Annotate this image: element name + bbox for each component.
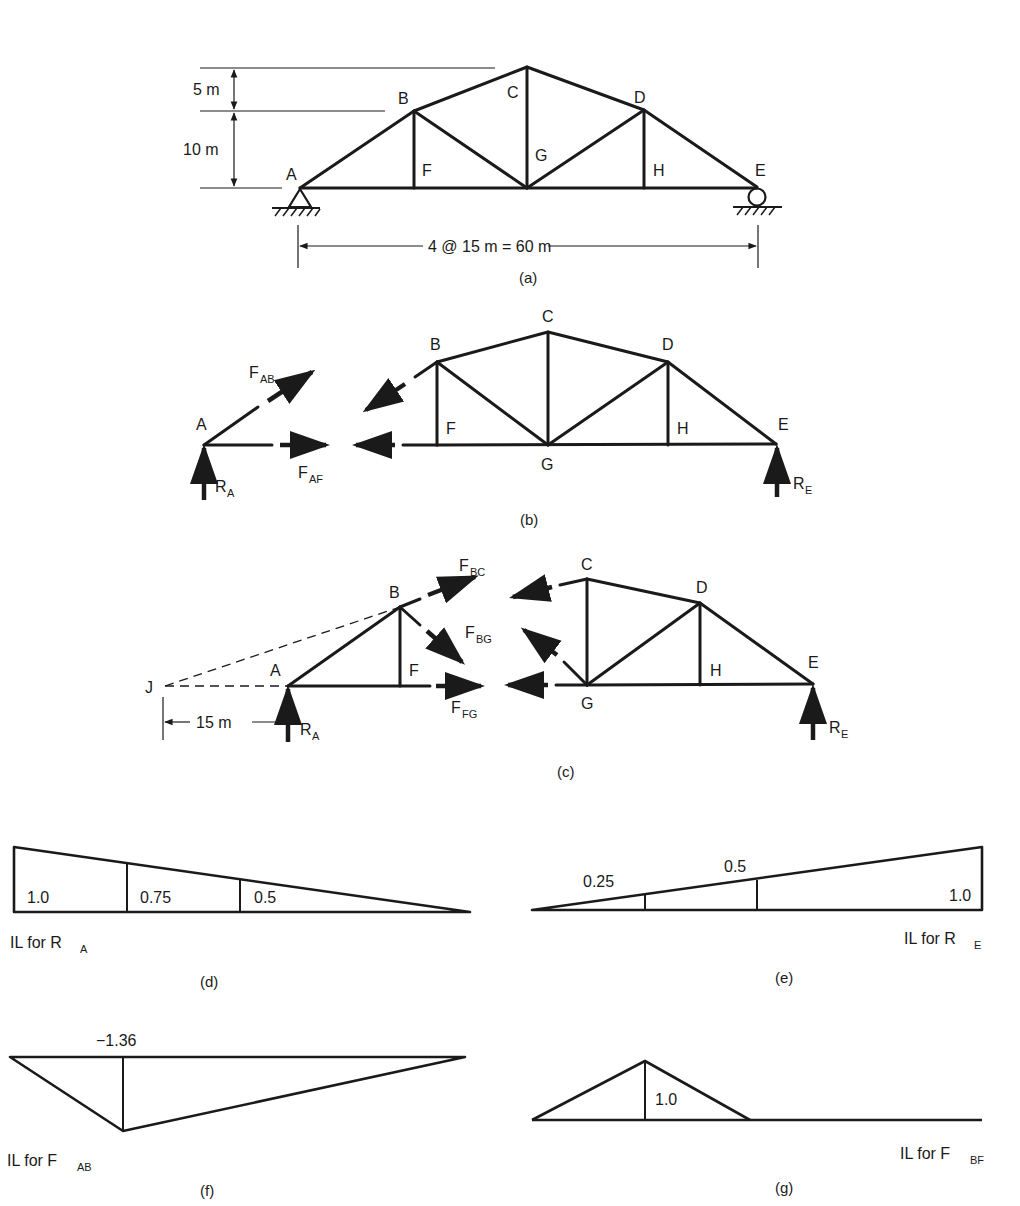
b-label-h: H [677,420,689,437]
c-label-f: F [409,662,419,679]
c-stub-bc [400,599,420,607]
b-ra-sub: A [227,487,235,499]
node-label-d: D [634,89,646,106]
c-stub-gb [564,662,587,685]
roller-support-icon [733,189,782,216]
b-bottom-chord [437,444,776,445]
c-dash-jb [165,607,400,686]
il-fab-title-main: IL for F [7,1152,57,1169]
stub-ab [204,407,258,445]
c-stub-bg [400,607,420,625]
caption-c: (c) [557,763,575,780]
force-fbc-opp-arrow [513,587,552,597]
il-ra-value-3: 0.5 [254,889,276,906]
dim-5m-label: 5 m [193,81,220,98]
il-fbf-value: 1.0 [655,1091,677,1108]
c-member-ab [288,607,400,686]
panel-c-section: 15 m J A B F R A F BC F BG F FG C D E G … [145,556,848,780]
b-label-f: F [446,420,456,437]
c-stub-cb [560,579,587,585]
c-label-g: G [581,695,593,712]
il-re-title-main: IL for R [904,930,956,947]
b-ra-main: R [215,478,227,495]
c-label-d: D [696,579,708,596]
b-label-b: B [430,336,441,353]
panel-d-il-ra: 1.0 0.75 0.5 IL for R A (d) [10,847,470,990]
b-faf-sub: AF [309,473,323,485]
il-ra-title-main: IL for R [10,934,62,951]
caption-a: (a) [519,269,537,286]
c-re-main: R [829,719,841,736]
panel-e-il-re: 0.25 0.5 1.0 IL for R E (e) [532,847,982,986]
il-ra-outline [14,847,470,912]
force-fbc-arrow [428,577,475,595]
b-re-main: R [793,475,805,492]
il-ra-value-1: 1.0 [27,889,49,906]
b-label-e: E [778,416,789,433]
b-faf-main: F [298,464,308,481]
caption-e: (e) [775,969,793,986]
panel-a-truss: 5 m 10 m A B C D E F G H [183,67,782,286]
caption-d: (d) [200,973,218,990]
c-label-h: H [710,662,722,679]
force-fab-opp-arrow [366,384,405,410]
il-ra-value-2: 0.75 [140,889,171,906]
pin-support-icon [272,189,320,216]
b-member-gd [548,362,668,445]
stub-ba [415,362,437,377]
panel-g-il-fbf: 1.0 IL for F BF (g) [532,1061,984,1196]
b-top-chord [437,332,776,444]
c-ra-main: R [300,721,312,738]
b-label-c: C [542,308,554,325]
c-label-b: B [389,584,400,601]
node-label-f: F [422,162,432,179]
force-fbg-opp-arrow [524,630,557,655]
c-ffg-sub: FG [462,708,477,720]
c-re-sub: E [841,728,848,740]
c-label-e: E [808,654,819,671]
il-fab-value: −1.36 [96,1032,137,1049]
caption-g: (g) [775,1179,793,1196]
il-re-value-3: 1.0 [949,887,971,904]
dim-10m-label: 10 m [183,141,219,158]
caption-f: (f) [200,1182,214,1199]
b-re-sub: E [805,484,812,496]
il-fbf-title-main: IL for F [900,1145,950,1162]
caption-b: (b) [520,511,538,528]
node-label-e: E [755,162,766,179]
b-label-a: A [196,416,207,433]
il-fab-title-sub: AB [77,1161,92,1173]
node-label-a: A [286,166,297,183]
node-label-b: B [398,90,409,107]
il-re-value-2: 0.5 [724,858,746,875]
c-label-j: J [145,679,153,696]
node-label-c: C [507,84,519,101]
panel-f-il-fab: −1.36 IL for F AB (f) [7,1032,465,1199]
b-label-g: G [541,456,553,473]
b-label-d: D [662,336,674,353]
c-ra-sub: A [312,730,320,742]
b-fab-main: F [249,364,259,381]
c-dim-label: 15 m [196,714,232,731]
il-fbf-title-sub: BF [970,1154,984,1166]
il-fab-outline [10,1057,465,1131]
il-fbf-peak [532,1061,750,1120]
c-ffg-main: F [451,699,461,716]
c-fbc-sub: BC [470,566,485,578]
force-fbg-arrow [427,631,462,662]
c-fbg-main: F [465,624,475,641]
c-member-gd [587,603,700,685]
c-label-c: C [581,556,593,573]
panel-b-free-body: A F AB F AF R A B C D E F G H R E (b) [196,308,812,528]
node-label-h: H [653,162,665,179]
span-label: 4 @ 15 m = 60 m [428,238,551,255]
c-label-a: A [270,662,281,679]
il-re-value-1: 0.25 [583,873,614,890]
il-re-title-sub: E [974,939,981,951]
b-fab-sub: AB [260,373,275,385]
c-fbc-main: F [459,557,469,574]
truss-influence-line-figure: 5 m 10 m A B C D E F G H [0,0,1020,1206]
node-label-g: G [535,147,547,164]
c-fbg-sub: BG [476,633,492,645]
il-ra-title-sub: A [80,943,88,955]
